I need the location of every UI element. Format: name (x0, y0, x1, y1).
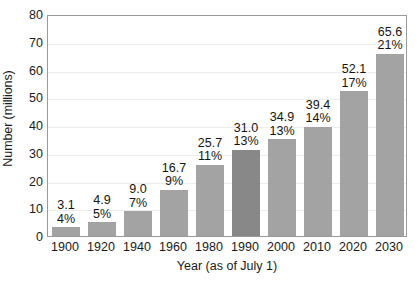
bar-percent: 14% (294, 112, 342, 126)
bar-slot: 16.79% (156, 16, 192, 236)
x-tick-label: 1900 (47, 239, 83, 255)
x-tick-label: 1990 (227, 239, 263, 255)
bar[interactable] (376, 54, 403, 236)
x-tick-label: 2020 (335, 239, 371, 255)
plot-area: 3.14%4.95%9.07%16.79%25.711%31.013%34.91… (47, 15, 407, 237)
bar-value: 65.6 (366, 26, 414, 40)
bar-slot: 34.913% (264, 16, 300, 236)
bar[interactable] (268, 139, 295, 236)
bar-slot: 9.07% (120, 16, 156, 236)
bar-slot: 65.621% (372, 16, 408, 236)
y-tick-label: 70 (29, 37, 43, 50)
bar-value: 16.7 (150, 162, 198, 176)
y-tick-label: 60 (29, 64, 43, 77)
bar-series: 3.14%4.95%9.07%16.79%25.711%31.013%34.91… (48, 16, 406, 236)
x-tick-label: 1980 (191, 239, 227, 255)
bar-slot: 39.414% (300, 16, 336, 236)
bar-value-label: 16.79% (150, 162, 198, 189)
bar-percent: 11% (186, 150, 234, 164)
bar-percent: 17% (330, 77, 378, 91)
bar-value-label: 52.117% (330, 63, 378, 90)
x-axis-tick-labels: 1900192019401960198019902000201020202030 (47, 239, 407, 257)
bar-percent: 21% (366, 39, 414, 53)
x-tick-label: 1940 (119, 239, 155, 255)
y-tick-label: 10 (29, 203, 43, 216)
bar[interactable] (160, 190, 187, 236)
y-tick-label: 0 (36, 231, 43, 244)
bar[interactable] (304, 127, 331, 236)
bar[interactable] (52, 227, 79, 236)
bar[interactable] (340, 91, 367, 236)
y-tick-label: 80 (29, 9, 43, 22)
x-tick-label: 1960 (155, 239, 191, 255)
x-tick-label: 2010 (299, 239, 335, 255)
bar-percent: 9% (150, 175, 198, 189)
x-tick-label: 2030 (371, 239, 407, 255)
bar-percent: 13% (258, 125, 306, 139)
bar-value-label: 65.621% (366, 26, 414, 53)
bar-value: 52.1 (330, 63, 378, 77)
bar-percent: 7% (114, 197, 162, 211)
y-axis-title: Number (millions) (0, 0, 16, 237)
bar[interactable] (196, 165, 223, 236)
bar[interactable] (124, 211, 151, 236)
y-tick-label: 50 (29, 92, 43, 105)
bar-value: 39.4 (294, 99, 342, 113)
bar-value-label: 39.414% (294, 99, 342, 126)
x-tick-label: 1920 (83, 239, 119, 255)
y-tick-label: 30 (29, 148, 43, 161)
x-tick-label: 2000 (263, 239, 299, 255)
bar[interactable] (232, 150, 259, 236)
y-axis-tick-labels: 01020304050607080 (16, 15, 43, 237)
y-tick-label: 40 (29, 120, 43, 133)
y-tick-label: 20 (29, 175, 43, 188)
x-axis-title: Year (as of July 1) (47, 258, 407, 274)
bar[interactable] (88, 222, 115, 236)
bar-chart: Number (millions) 01020304050607080 3.14… (0, 0, 419, 286)
